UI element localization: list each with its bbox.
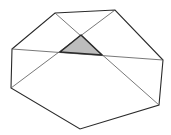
shaded-triangle	[60, 35, 102, 55]
heptagon-outline	[11, 10, 163, 129]
diagonal-2	[55, 13, 159, 105]
polygon-diagram	[0, 0, 171, 135]
